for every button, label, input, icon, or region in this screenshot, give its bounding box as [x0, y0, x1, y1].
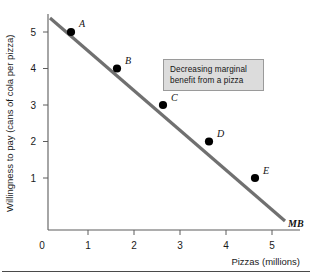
x-tick-label-0: 0: [39, 240, 45, 251]
x-tick-label-3: 3: [177, 240, 183, 251]
y-tick-label-4: 4: [30, 63, 36, 74]
x-tick-label-2: 2: [131, 240, 137, 251]
annotation-line-2: benefit from a pizza: [170, 75, 258, 86]
y-tick-label-1: 1: [30, 173, 36, 184]
data-point-d: [205, 137, 213, 145]
data-point-label-e: E: [262, 165, 269, 176]
data-point-e: [251, 174, 259, 182]
data-point-b: [113, 64, 121, 72]
curve-label-mb: MB: [287, 218, 304, 229]
marginal-benefit-figure: Willingness to pay (cans of cola per piz…: [0, 0, 312, 275]
data-point-c: [159, 101, 167, 109]
bottom-divider: [2, 271, 310, 272]
data-point-label-b: B: [125, 55, 131, 66]
data-point-label-a: A: [78, 18, 86, 29]
data-point-a: [67, 28, 75, 36]
marginal-benefit-curve: [50, 18, 285, 221]
y-tick-label-5: 5: [30, 27, 36, 38]
chart-canvas: Willingness to pay (cans of cola per piz…: [0, 0, 312, 275]
annotation-box: Decreasing marginal benefit from a pizza: [163, 59, 264, 91]
x-tick-label-4: 4: [223, 240, 229, 251]
y-tick-label-3: 3: [30, 100, 36, 111]
annotation-line-1: Decreasing marginal: [170, 64, 258, 75]
y-axis-title: Willingness to pay (cans of cola per piz…: [4, 35, 15, 212]
x-axis-title: Pizzas (millions): [231, 256, 300, 267]
y-tick-label-2: 2: [30, 136, 36, 147]
data-point-label-c: C: [171, 92, 178, 103]
x-tick-label-5: 5: [269, 240, 275, 251]
x-tick-label-1: 1: [85, 240, 91, 251]
data-point-label-d: D: [216, 128, 225, 139]
